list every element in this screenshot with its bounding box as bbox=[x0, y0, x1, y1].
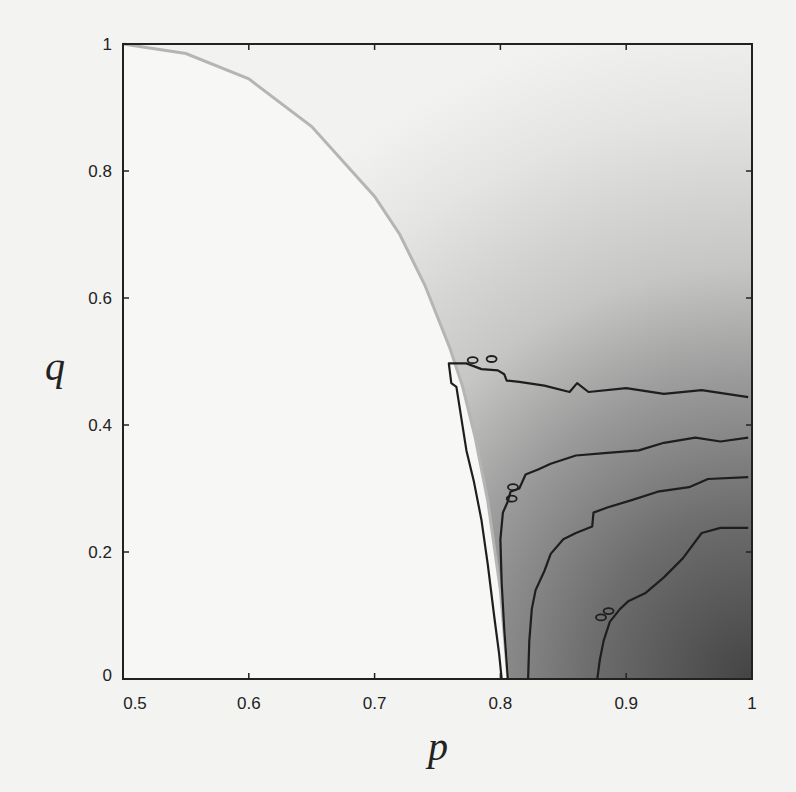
x-tick-label: 1 bbox=[747, 694, 756, 713]
y-tick-label: 0.2 bbox=[88, 543, 112, 562]
chart: 0.50.60.70.80.91 00.20.40.60.81 p q bbox=[0, 0, 796, 792]
x-axis-label: p bbox=[425, 724, 448, 769]
x-tick-label: 0.8 bbox=[489, 694, 513, 713]
y-axis-label: q bbox=[45, 344, 65, 389]
x-tick-label: 0.6 bbox=[237, 694, 261, 713]
y-tick-label: 0.6 bbox=[88, 289, 112, 308]
x-tick-label: 0.5 bbox=[123, 694, 147, 713]
y-tick-label: 0.4 bbox=[88, 416, 112, 435]
x-tick-label: 0.9 bbox=[614, 694, 638, 713]
y-tick-label: 1 bbox=[103, 35, 112, 54]
x-tick-label: 0.7 bbox=[363, 694, 387, 713]
y-tick-label: 0 bbox=[103, 666, 112, 685]
y-tick-label: 0.8 bbox=[88, 162, 112, 181]
